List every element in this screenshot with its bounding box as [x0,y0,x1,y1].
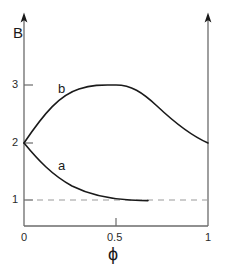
x-tick-label-1: 1 [205,232,211,243]
curve-b [24,85,208,143]
curve-label-a: a [58,159,65,172]
x-tick-label-0: 0 [21,232,27,243]
y-tick-label-1: 1 [12,194,18,205]
y-axis-label: B [13,25,23,40]
curve-label-b: b [58,82,65,95]
y-axis [21,13,28,227]
chart-figure: B ϕ 3 2 1 0 0.5 1 b a [0,0,225,277]
y-tick-label-2: 2 [12,137,18,148]
right-axis [205,13,212,227]
x-axis-label: ϕ [108,245,118,263]
curve-a [24,143,148,201]
y-tick-label-3: 3 [12,79,18,90]
x-tick-label-05: 0.5 [107,232,122,243]
